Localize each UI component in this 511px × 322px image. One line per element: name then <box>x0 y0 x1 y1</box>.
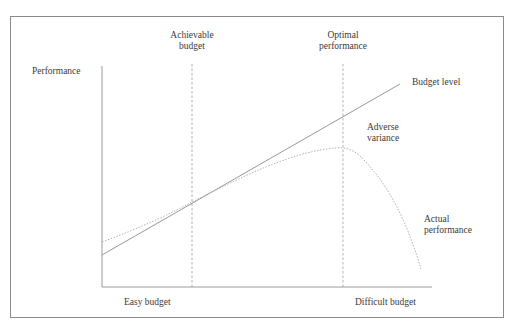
achievable-budget-label: Achievable budget <box>170 30 213 52</box>
optimal-performance-label: Optimal performance <box>319 30 367 52</box>
budget-performance-diagram <box>0 0 511 322</box>
easy-budget-label: Easy budget <box>124 297 171 308</box>
actual-line2: performance <box>424 225 472 236</box>
adverse-variance-label: Adverse variance <box>367 122 399 144</box>
optimal-label-line1: Optimal <box>319 30 367 41</box>
actual-performance-curve <box>102 148 421 269</box>
budget-level-label: Budget level <box>412 77 460 88</box>
difficult-budget-label: Difficult budget <box>355 297 416 308</box>
actual-performance-label: Actual performance <box>424 214 472 236</box>
budget-level-line <box>102 84 400 255</box>
adverse-line1: Adverse <box>367 122 399 133</box>
y-axis-label: Performance <box>32 66 81 77</box>
adverse-line2: variance <box>367 133 399 144</box>
achievable-label-line2: budget <box>170 41 213 52</box>
optimal-label-line2: performance <box>319 41 367 52</box>
actual-line1: Actual <box>424 214 472 225</box>
achievable-label-line1: Achievable <box>170 30 213 41</box>
